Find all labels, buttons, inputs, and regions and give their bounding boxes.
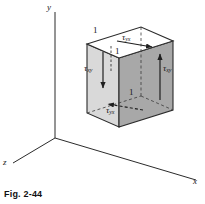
shear-label-left-subscript: xy [87, 67, 92, 73]
shear-label-right: τxy [163, 64, 171, 73]
axis-label-z: z [3, 158, 7, 167]
shear-label-top-subscript: yx [125, 36, 130, 42]
figure-stress-element: y x z 1 1 1 τyx τxy τxy τyx Fig. 2-44 [0, 0, 205, 204]
shear-label-bottom-subscript: yx [109, 109, 114, 115]
figure-caption: Fig. 2-44 [4, 189, 42, 199]
stress-element-drawing [0, 0, 205, 204]
shear-label-right-subscript: xy [166, 67, 171, 73]
axis-z-line [13, 138, 55, 163]
axis-label-x: x [193, 177, 197, 186]
shear-label-bottom: τyx [106, 106, 114, 115]
dimension-label-top-left: 1 [93, 26, 98, 35]
shear-label-left: τxy [84, 64, 92, 73]
axis-x-line [55, 138, 196, 180]
axis-label-y: y [47, 3, 51, 12]
dimension-label-front-edge: 1 [129, 88, 134, 97]
shear-label-top: τyx [122, 33, 130, 42]
dimension-label-top-inner: 1 [115, 47, 120, 56]
